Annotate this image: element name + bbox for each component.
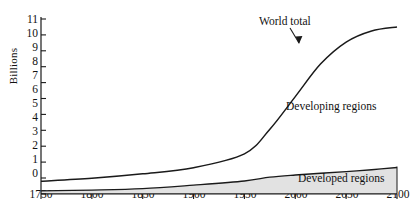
annotation-developing-regions: Developing regions — [286, 100, 376, 112]
annotation-world-total: World total — [259, 15, 311, 27]
annotation-developed-regions: Developed regions — [298, 172, 385, 184]
population-chart: Billions 11 10 9 8 7 6 5 4 3 2 1 0 1750 … — [0, 0, 412, 216]
